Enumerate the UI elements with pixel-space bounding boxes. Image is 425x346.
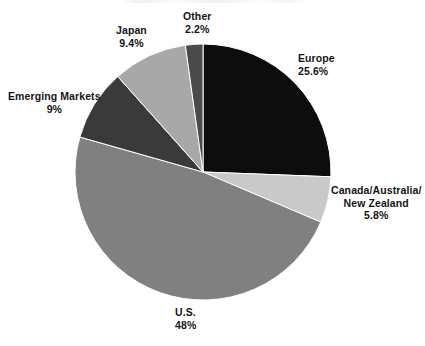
slice-label-japan-name: Japan [116,24,147,37]
slice-label-europe-value: 25.6% [298,65,335,78]
slice-label-canada-value: 5.8% [331,209,421,222]
slice-label-canada-line2: New Zealand [331,197,421,210]
slice-label-other-name: Other [183,10,212,23]
slice-label-us-name: U.S. [175,306,196,319]
slice-label-japan-value: 9.4% [116,37,147,50]
slice-label-us-value: 48% [175,319,196,332]
slice-label-emerging-markets: Emerging Markets 9% [8,90,101,115]
slice-label-canada-australia-new-zealand: Canada/Australia/ New Zealand 5.8% [331,184,421,222]
slice-label-europe-name: Europe [298,52,335,65]
pie-chart-svg [0,0,425,346]
pie-slice-group [75,44,331,300]
slice-label-europe: Europe 25.6% [298,52,335,77]
slice-label-emerging-markets-name: Emerging Markets [8,90,101,103]
slice-label-canada-line1: Canada/Australia/ [331,184,421,197]
slice-label-other: Other 2.2% [183,10,212,35]
slice-label-us: U.S. 48% [175,306,196,331]
slice-label-other-value: 2.2% [183,23,212,36]
slice-label-japan: Japan 9.4% [116,24,147,49]
slice-label-emerging-markets-value: 9% [8,103,101,116]
pie-chart: Europe 25.6% Canada/Australia/ New Zeala… [0,0,425,346]
